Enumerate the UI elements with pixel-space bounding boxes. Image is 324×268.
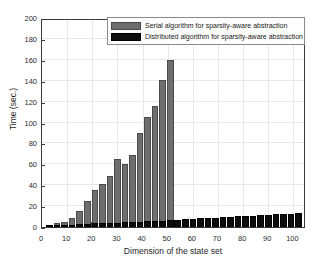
bar-serial-x21 <box>92 190 99 227</box>
y-tick-label-160: 160 <box>24 57 37 65</box>
bar-serial-x48 <box>159 80 166 227</box>
y-tick-label-120: 120 <box>24 99 37 107</box>
legend-label-serial: Serial algorithm for sparsity-aware abst… <box>145 21 287 30</box>
gridline-x-100 <box>293 20 294 227</box>
x-tick-label-100: 100 <box>277 234 307 243</box>
gridline-x-60 <box>193 20 194 227</box>
bar-dist-x21 <box>92 223 99 227</box>
bar-dist-x99 <box>288 214 295 227</box>
y-tick-label-80: 80 <box>29 140 37 148</box>
y-tick-mark-40 <box>41 186 45 187</box>
y-tick-label-140: 140 <box>24 78 37 86</box>
y-tick-mark-100 <box>41 124 45 125</box>
legend-item-distributed: Distributed algorithm for sparsity-aware… <box>111 31 301 42</box>
bar-dist-x60 <box>190 219 197 227</box>
y-tick-label-60: 60 <box>29 161 37 169</box>
gridline-x-90 <box>268 20 269 227</box>
bar-serial-x45 <box>152 106 159 227</box>
y-tick-label-40: 40 <box>29 182 37 190</box>
bar-dist-x102 <box>295 213 302 227</box>
bar-serial-x42 <box>144 117 151 227</box>
bar-dist-x27 <box>107 223 114 227</box>
bar-serial-x30 <box>114 159 121 227</box>
bar-dist-x75 <box>227 217 234 227</box>
legend-swatch-distributed-icon <box>111 33 141 41</box>
bar-serial-x27 <box>107 176 114 227</box>
bar-dist-x30 <box>114 223 121 227</box>
bar-dist-x18 <box>84 224 91 227</box>
y-tick-mark-0 <box>41 228 45 229</box>
bar-dist-x87 <box>257 215 264 227</box>
bar-serial-x24 <box>99 184 106 227</box>
bar-serial-x51 <box>167 60 174 227</box>
y-tick-label-100: 100 <box>24 120 37 128</box>
y-axis-label: Time (sec.) <box>8 49 18 169</box>
bar-dist-x57 <box>182 219 189 227</box>
y-tick-mark-140 <box>41 82 45 83</box>
bar-dist-x36 <box>129 222 136 227</box>
y-tick-mark-180 <box>41 40 45 41</box>
x-tick-mark-0 <box>41 222 42 227</box>
bar-dist-x69 <box>212 218 219 227</box>
bar-dist-x63 <box>197 218 204 227</box>
bar-dist-x9 <box>61 225 68 227</box>
y-tick-label-0: 0 <box>33 224 37 232</box>
y-tick-mark-200 <box>41 19 45 20</box>
bar-dist-x33 <box>122 222 129 227</box>
bar-dist-x54 <box>174 220 181 227</box>
bar-dist-x12 <box>69 225 76 228</box>
bar-dist-x93 <box>273 214 280 227</box>
y-tick-label-180: 180 <box>24 36 37 44</box>
y-tick-label-20: 20 <box>29 203 37 211</box>
bar-dist-x3 <box>46 225 53 227</box>
bar-dist-x78 <box>235 216 242 227</box>
bar-dist-x51 <box>167 220 174 227</box>
figure-canvas: 020406080100120140160180200 Time (sec.) … <box>0 0 324 268</box>
y-tick-mark-120 <box>41 103 45 104</box>
chart-legend: Serial algorithm for sparsity-aware abst… <box>107 17 305 45</box>
bar-dist-x45 <box>152 221 159 227</box>
bar-serial-x33 <box>122 164 129 227</box>
bar-dist-x24 <box>99 223 106 227</box>
legend-swatch-serial-icon <box>111 22 141 30</box>
bar-dist-x42 <box>144 221 151 227</box>
y-tick-mark-20 <box>41 207 45 208</box>
gridline-x-10 <box>67 20 68 227</box>
bar-dist-x90 <box>265 215 272 227</box>
bar-dist-x81 <box>242 216 249 227</box>
bar-serial-x36 <box>129 155 136 227</box>
gridline-x-70 <box>218 20 219 227</box>
bar-dist-x6 <box>54 225 61 227</box>
bar-dist-x84 <box>250 216 257 227</box>
bar-dist-x66 <box>205 218 212 227</box>
bar-serial-x39 <box>137 133 144 227</box>
bar-dist-x15 <box>76 224 83 227</box>
x-axis-label: Dimension of the state set <box>41 246 305 256</box>
plot-area <box>41 19 305 228</box>
y-tick-mark-80 <box>41 144 45 145</box>
bar-dist-x48 <box>159 221 166 227</box>
bar-dist-x72 <box>220 217 227 227</box>
legend-label-distributed: Distributed algorithm for sparsity-aware… <box>145 32 303 41</box>
y-tick-mark-60 <box>41 165 45 166</box>
y-tick-mark-160 <box>41 61 45 62</box>
legend-item-serial: Serial algorithm for sparsity-aware abst… <box>111 20 301 31</box>
bar-dist-x39 <box>137 222 144 227</box>
gridline-x-80 <box>243 20 244 227</box>
bar-dist-x96 <box>280 214 287 227</box>
y-tick-label-200: 200 <box>24 15 37 23</box>
